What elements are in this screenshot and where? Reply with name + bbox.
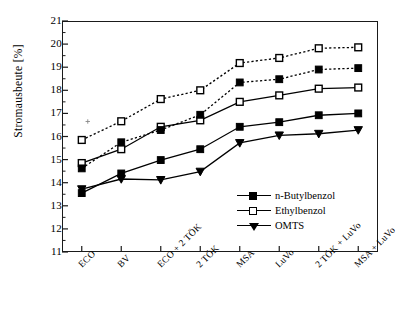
chart-legend: n-ButylbenzolEthylbenzolOMTS	[237, 188, 335, 233]
legend-label: OMTS	[275, 219, 304, 233]
chart-canvas	[0, 0, 398, 322]
series-2	[78, 127, 363, 194]
legend-label: Ethylbenzol	[275, 204, 326, 218]
legend-item: n-Butylbenzol	[237, 188, 335, 203]
legend-item: Ethylbenzol	[237, 203, 335, 218]
filled-triangle-down-icon	[237, 219, 271, 233]
filled-square-icon	[237, 189, 271, 203]
chart-figure: Stromausbeute [%] 1112131415161718192021…	[0, 0, 398, 322]
open-square-icon	[237, 204, 271, 218]
legend-item: OMTS	[237, 218, 335, 233]
series-4	[78, 44, 361, 143]
legend-label: n-Butylbenzol	[275, 189, 335, 203]
